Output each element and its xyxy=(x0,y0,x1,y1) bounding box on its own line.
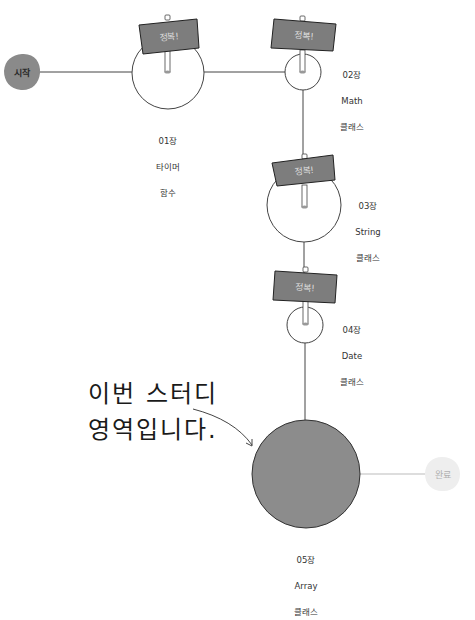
chapter-2-label: 02장 Math 클래스 xyxy=(330,56,374,147)
conquered-flag-ch4 xyxy=(273,267,337,326)
start-label: 시작 xyxy=(4,66,40,79)
chapter-2-subtitle: 클래스 xyxy=(330,121,374,134)
chapter-3-subtitle: 클래스 xyxy=(346,252,390,265)
chapter-4-number: 04장 xyxy=(330,324,374,337)
chapter-3-title: String xyxy=(346,226,390,239)
callout-line-1: 이번 스터디 xyxy=(88,376,218,412)
chapter-5-node-current xyxy=(252,420,360,528)
chapter-4-title: Date xyxy=(330,350,374,363)
chapter-3-label: 03장 String 클래스 xyxy=(346,187,390,278)
chapter-5-subtitle: 클래스 xyxy=(284,606,328,619)
chapter-5-number: 05장 xyxy=(284,554,328,567)
chapter-1-label: 01장 타이머 함수 xyxy=(146,122,190,213)
chapter-5-title: Array xyxy=(284,580,328,593)
chapter-5-label: 05장 Array 클래스 xyxy=(284,541,328,620)
study-area-callout: 이번 스터디 영역입니다. xyxy=(88,376,218,448)
chapter-2-number: 02장 xyxy=(330,69,374,82)
chapter-1-subtitle: 함수 xyxy=(146,187,190,200)
end-label: 완료 xyxy=(425,468,460,481)
chapter-1-title: 타이머 xyxy=(146,161,190,174)
chapter-4-subtitle: 클래스 xyxy=(330,376,374,389)
chapter-2-title: Math xyxy=(330,95,374,108)
chapter-4-label: 04장 Date 클래스 xyxy=(330,311,374,402)
conquered-flag-ch2 xyxy=(271,16,336,74)
chapter-3-number: 03장 xyxy=(346,200,390,213)
chapter-1-number: 01장 xyxy=(146,135,190,148)
callout-line-2: 영역입니다. xyxy=(88,412,218,448)
